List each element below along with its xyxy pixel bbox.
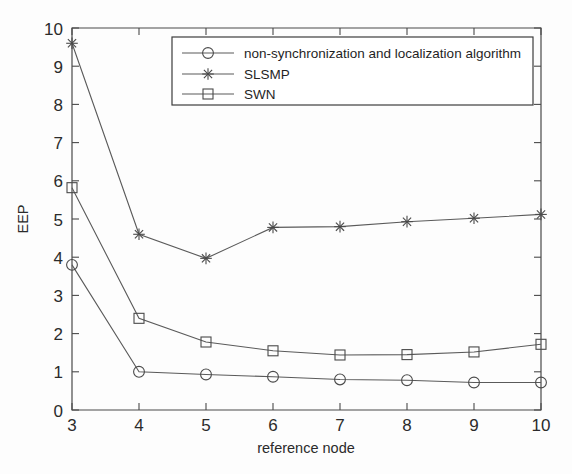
star-marker-icon — [401, 216, 413, 228]
y-tick-label: 1 — [54, 363, 63, 382]
y-tick-label: 0 — [54, 402, 63, 421]
x-tick-label: 6 — [268, 416, 277, 435]
x-tick-label: 4 — [134, 416, 143, 435]
star-marker-icon — [66, 37, 78, 49]
y-tick-label: 9 — [54, 58, 63, 77]
x-axis-title: reference node — [257, 440, 355, 456]
x-tick-labels: 3 4 5 6 7 8 9 10 — [67, 416, 550, 435]
y-tick-label: 10 — [44, 20, 63, 39]
x-tick-label: 7 — [335, 416, 344, 435]
x-tick-label: 9 — [469, 416, 478, 435]
x-tick-label: 10 — [532, 416, 551, 435]
y-tick-label: 3 — [54, 287, 63, 306]
y-tick-label: 4 — [54, 249, 63, 268]
line-chart: 3 4 5 6 7 8 9 10 0 1 2 3 4 5 6 7 8 9 10 … — [0, 0, 572, 474]
legend-label: non-synchronization and localization alg… — [244, 46, 521, 61]
y-tick-label: 7 — [54, 134, 63, 153]
x-tick-label: 8 — [402, 416, 411, 435]
star-marker-icon — [202, 68, 214, 80]
legend-label: SLSMP — [244, 67, 290, 82]
legend-label: SWN — [244, 87, 276, 102]
x-tick-label: 3 — [67, 416, 76, 435]
star-marker-icon — [133, 228, 145, 240]
star-marker-icon — [200, 253, 212, 265]
star-marker-icon — [334, 221, 346, 233]
y-tick-label: 2 — [54, 325, 63, 344]
legend: non-synchronization and localization alg… — [172, 37, 533, 105]
y-tick-label: 5 — [54, 211, 63, 230]
y-tick-label: 8 — [54, 96, 63, 115]
y-tick-labels: 0 1 2 3 4 5 6 7 8 9 10 — [44, 20, 63, 421]
star-marker-icon — [535, 209, 547, 221]
y-tick-label: 6 — [54, 172, 63, 191]
star-marker-icon — [468, 212, 480, 224]
chart-figure: 3 4 5 6 7 8 9 10 0 1 2 3 4 5 6 7 8 9 10 … — [0, 0, 572, 474]
y-axis-title: EEP — [15, 204, 31, 233]
star-marker-icon — [267, 222, 279, 234]
x-tick-label: 5 — [201, 416, 210, 435]
